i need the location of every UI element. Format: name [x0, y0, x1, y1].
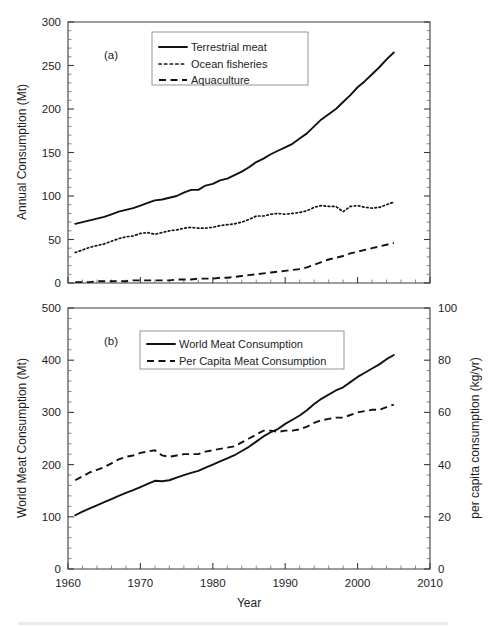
panel-b-y-tick-label-right: 0 [438, 563, 444, 575]
panel-b-y-tick-label: 0 [55, 563, 61, 575]
panel-b-y-tick-label: 400 [42, 354, 61, 366]
panel-b-y-tick-labels-right: 020406080100 [438, 302, 457, 575]
panel-b-x-ticks [68, 563, 430, 569]
panel-a-series-2 [75, 243, 394, 282]
panel-b: 0100200300400500 020406080100 1960197019… [15, 302, 482, 610]
panel-b-series-group [75, 355, 394, 515]
panel-b-series-1 [75, 405, 394, 481]
panel-b-x-tick-label: 1970 [128, 577, 154, 589]
panel-b-y-tick-label-right: 60 [438, 406, 451, 418]
panel-b-y-axis-title-left: World Meat Consumption (Mt) [15, 358, 29, 518]
panel-a-y-tick-label: 250 [42, 60, 61, 72]
panel-b-y-axis-title-right: per capita consumption (kg/yr) [468, 357, 482, 518]
panel-a-legend: Terrestrial meat Ocean fisheries Aquacul… [152, 32, 308, 86]
panel-b-x-tick-label: 1960 [55, 577, 81, 589]
panel-b-y-tick-label: 200 [42, 459, 61, 471]
panel-a: 050100150200250300 Annual Consumption (M… [15, 16, 430, 289]
panel-b-x-tick-label: 1990 [272, 577, 298, 589]
panel-a-y-tick-label: 50 [48, 234, 61, 246]
panel-b-y-ticks-right [424, 308, 430, 569]
figure-container: 050100150200250300 Annual Consumption (M… [0, 0, 493, 626]
panel-a-legend-label-aquaculture: Aquaculture [191, 74, 250, 86]
two-panel-line-chart: 050100150200250300 Annual Consumption (M… [0, 0, 493, 626]
panel-b-y-tick-labels-left: 0100200300400500 [42, 302, 61, 575]
panel-a-label: (a) [104, 49, 118, 61]
panel-b-series-0 [75, 355, 394, 515]
panel-b-y-tick-label: 100 [42, 511, 61, 523]
panel-a-y-tick-label: 0 [55, 277, 61, 289]
panel-b-y-tick-label-right: 100 [438, 302, 457, 314]
panel-b-x-tick-label: 1980 [200, 577, 226, 589]
panel-b-x-tick-labels: 196019701980199020002010 [55, 577, 443, 589]
panel-b-label: (b) [104, 335, 118, 347]
cropped-caption-strip [18, 622, 448, 625]
panel-b-y-tick-label-right: 40 [438, 459, 451, 471]
panel-b-y-tick-label: 300 [42, 406, 61, 418]
panel-a-y-tick-label: 100 [42, 190, 61, 202]
panel-b-y-tick-label-right: 20 [438, 511, 451, 523]
panel-a-y-axis-title: Annual Consumption (Mt) [15, 84, 29, 220]
panel-a-legend-label-ocean: Ocean fisheries [191, 58, 268, 70]
panel-b-legend-label-world: World Meat Consumption [179, 338, 303, 350]
panel-b-x-axis-title: Year [237, 596, 261, 610]
panel-a-y-tick-label: 200 [42, 103, 61, 115]
panel-b-y-ticks-left [68, 308, 74, 569]
panel-b-x-tick-label: 2000 [345, 577, 371, 589]
panel-a-y-tick-label: 150 [42, 147, 61, 159]
panel-b-legend-label-percapita: Per Capita Meat Consumption [179, 355, 326, 367]
panel-a-legend-label-terrestrial: Terrestrial meat [191, 41, 267, 53]
panel-a-y-tick-label: 300 [42, 16, 61, 28]
panel-b-y-tick-label-right: 80 [438, 354, 451, 366]
panel-b-legend: World Meat Consumption Per Capita Meat C… [140, 331, 344, 369]
panel-b-x-tick-label: 2010 [417, 577, 443, 589]
panel-a-series-group [75, 52, 394, 282]
panel-a-y-tick-labels: 050100150200250300 [42, 16, 61, 289]
panel-b-y-tick-label: 500 [42, 302, 61, 314]
